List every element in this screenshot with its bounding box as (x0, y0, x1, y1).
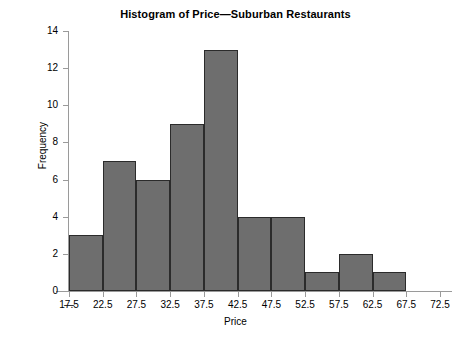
y-axis-tick-label-text: 4 (32, 212, 58, 222)
histogram-bar (69, 235, 103, 291)
y-axis-tick-label: 6 (30, 175, 58, 185)
y-axis-tick-label-text: 8 (32, 137, 58, 147)
x-axis-tick (136, 292, 137, 297)
histogram-bar (238, 217, 272, 291)
x-axis-tick (69, 292, 70, 297)
histogram-bar (305, 272, 339, 291)
y-axis-tick-label-text: 12 (32, 63, 58, 73)
x-axis-tick (406, 292, 407, 297)
chart-title: Histogram of Price—Suburban Restaurants (0, 8, 471, 20)
y-axis-tick-label: 8 (30, 137, 58, 147)
plot-area (69, 31, 440, 291)
x-axis-tick (305, 292, 306, 297)
y-axis-tick-label: 4 (30, 212, 58, 222)
x-axis-tick (238, 292, 239, 297)
x-axis-tick (204, 292, 205, 297)
y-axis-tick-label-text: 10 (32, 100, 58, 110)
y-axis-tick-label: 0 (30, 286, 58, 296)
histogram-bar (204, 50, 238, 291)
x-axis-line (56, 291, 452, 292)
y-axis-tick-label: 14 (30, 26, 58, 36)
x-axis-tick (339, 292, 340, 297)
y-axis-tick-label-text: 6 (32, 175, 58, 185)
x-axis-tick (170, 292, 171, 297)
y-axis-tick-label-text: 0 (32, 286, 58, 296)
histogram-chart: Histogram of Price—Suburban Restaurants … (0, 0, 471, 338)
histogram-bar (339, 254, 373, 291)
y-axis-tick-label-text: 14 (32, 26, 58, 36)
y-axis-tick-label: 10 (30, 100, 58, 110)
x-axis-tick (103, 292, 104, 297)
x-axis-tick (271, 292, 272, 297)
x-axis-tick (440, 292, 441, 297)
histogram-bar (373, 272, 407, 291)
x-axis-title: Price (0, 316, 471, 327)
histogram-bar (271, 217, 305, 291)
x-axis-tick-label: 72.5 (420, 299, 460, 310)
histogram-bar (103, 161, 137, 291)
y-axis-tick-label: 2 (30, 249, 58, 259)
y-axis-tick-label-text: 2 (32, 249, 58, 259)
x-axis-tick (373, 292, 374, 297)
histogram-bar (170, 124, 204, 291)
histogram-bar (136, 180, 170, 291)
y-axis-tick-label: 12 (30, 63, 58, 73)
